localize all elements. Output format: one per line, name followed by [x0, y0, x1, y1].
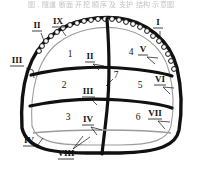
callout-label-inner-II: II — [86, 51, 94, 61]
tunnel-diagram-svg: 1 2 3 4 5 6 7 I II III IV V VI VII VIII — [0, 0, 202, 181]
callout-label-I: I — [156, 17, 160, 27]
zone-label-7: 7 — [114, 70, 119, 80]
zone-label-3: 3 — [66, 112, 71, 122]
callout-label-IV: IV — [24, 135, 35, 145]
tunnel-cross-section-figure: 图 , 隧道 断面 开挖 顺序 及 支护 结构 示意图 — [0, 0, 202, 181]
callout-label-IX: IX — [53, 16, 64, 26]
zone-label-1: 1 — [68, 49, 73, 59]
figure-caption-strip: 图 , 隧道 断面 开挖 顺序 及 支护 结构 示意图 — [0, 0, 202, 10]
zone-label-6: 6 — [136, 112, 141, 122]
callout-label-VIII: VIII — [57, 148, 75, 158]
zone-label-5: 5 — [138, 80, 143, 90]
zone-label-2: 2 — [62, 80, 67, 90]
callout-label-VII: VII — [148, 108, 162, 118]
callout-label-inner-III: III — [83, 86, 94, 96]
callout-label-III: III — [12, 55, 23, 65]
callout-label-inner-IV: IV — [83, 114, 94, 124]
callout-label-V: V — [140, 44, 147, 54]
zone-label-4: 4 — [129, 47, 134, 57]
callout-label-II: II — [33, 20, 41, 30]
callout-label-VI: VI — [155, 74, 165, 84]
